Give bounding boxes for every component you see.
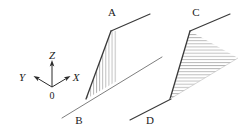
label-A: A [108, 6, 116, 18]
left-figure-group: A B [62, 6, 162, 126]
figure-canvas: A B C D [0, 0, 249, 139]
label-D: D [146, 114, 154, 126]
x-axis-label: X [72, 71, 81, 83]
technical-drawing-svg: A B C D [0, 0, 249, 139]
left-figure-top-line [111, 14, 150, 31]
label-B: B [75, 114, 82, 126]
right-figure-hatching [165, 25, 245, 105]
y-axis-line [37, 78, 52, 87]
z-axis-label: Z [49, 49, 56, 61]
label-C: C [192, 6, 199, 18]
origin-label: 0 [50, 90, 55, 101]
y-axis-arrowhead [34, 76, 41, 81]
x-axis-line [52, 78, 67, 87]
y-axis-label: Y [19, 71, 27, 83]
x-axis-arrowhead [64, 76, 71, 81]
coordinate-triad-group: Z X Y 0 [19, 49, 81, 101]
